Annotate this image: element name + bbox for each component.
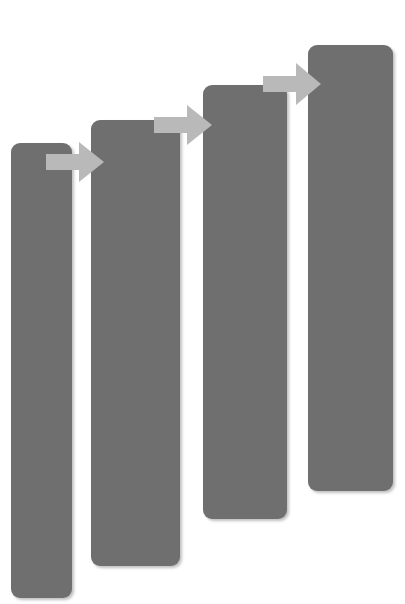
arrow-right-icon [46, 142, 104, 182]
timeline-stage-2016[interactable]: 2016 Implementation of a strategic proje… [11, 143, 72, 598]
timeline-stage-2017[interactable]: 2017 Info Central editorial team now in … [91, 120, 180, 566]
timeline-stage-2018-2019[interactable]: 2018–2019 Review of physical spaces and … [203, 85, 287, 519]
timeline-stage-2019-onwards[interactable]: 2019–onwards Renaming of Customer Servic… [308, 45, 393, 491]
arrow-right-icon [263, 63, 321, 105]
arrow-right-icon [154, 105, 212, 145]
timeline-diagram-canvas: 2016 Implementation of a strategic proje… [0, 0, 405, 604]
